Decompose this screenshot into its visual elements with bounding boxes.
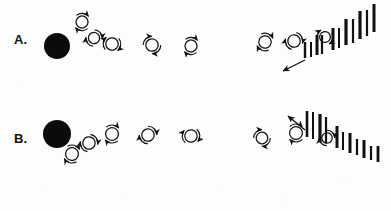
- rotating-particle: [84, 28, 105, 48]
- rotating-particle: [72, 11, 92, 32]
- panel-label-a: A.: [14, 32, 27, 47]
- rotating-particle: [102, 123, 123, 145]
- pointer-arrow: [288, 116, 305, 130]
- spectrum-bar: [377, 146, 380, 162]
- particle-circle: [74, 14, 89, 29]
- particle-circle: [104, 36, 120, 52]
- spectrum-bar: [366, 10, 368, 36]
- spectrum-bar: [316, 35, 319, 55]
- rotation-arrow-icon: [260, 138, 272, 147]
- rotating-particle: [181, 35, 201, 56]
- particle-circle: [81, 135, 97, 151]
- spectrum-bar: [338, 28, 340, 48]
- rotating-particle: [252, 127, 273, 149]
- rotating-particle: [78, 133, 100, 153]
- spectrum-bar: [352, 19, 354, 43]
- rotation-arrow-icon: [85, 36, 93, 48]
- spectrum-bar: [370, 146, 372, 160]
- rotating-particle: [286, 122, 306, 143]
- figure-root: A.B.: [0, 0, 391, 211]
- particle-circle: [87, 31, 102, 46]
- panel-label-b: B.: [14, 131, 27, 146]
- pointer-arrow: [283, 60, 305, 71]
- spectrum-bar: [342, 132, 344, 150]
- panel-a: A.: [14, 4, 376, 71]
- particle-circle: [318, 30, 333, 45]
- spectrum-bar: [356, 139, 358, 155]
- rotation-arrow-icon: [327, 128, 336, 139]
- rotation-arrow-icon: [252, 129, 264, 138]
- spectrum-bar: [304, 42, 306, 58]
- spectrum-bar: [349, 133, 352, 153]
- spectrum-bar: [306, 111, 309, 137]
- rotating-particle: [101, 34, 123, 54]
- panel-b: B.: [14, 111, 379, 166]
- rotating-particle: [181, 127, 201, 145]
- rotating-particle: [141, 34, 163, 57]
- particle-circle: [104, 126, 120, 142]
- spectrum-bar: [363, 140, 366, 158]
- spectrum-bar: [373, 4, 376, 32]
- source-sphere: [44, 33, 70, 59]
- spectrum-bar: [310, 42, 312, 57]
- rotating-particle: [284, 31, 305, 50]
- source-sphere: [43, 120, 71, 148]
- spectrum-bar: [312, 112, 314, 139]
- particle-circle: [286, 33, 301, 48]
- rotating-particle: [137, 124, 160, 146]
- spectrum-bar: [344, 19, 347, 45]
- spectrum-bar: [325, 117, 327, 143]
- spectrum-bar: [321, 35, 323, 54]
- spectrum-bar: [358, 11, 361, 39]
- rotation-arrow-icon: [95, 28, 103, 40]
- spectrum-bar: [336, 126, 339, 148]
- spectrum-bar: [332, 28, 335, 50]
- spectrum-bar: [318, 114, 321, 142]
- rotating-particle: [254, 30, 277, 53]
- particle-circle: [183, 38, 198, 53]
- figure-canvas: A.B.: [0, 0, 391, 211]
- particle-circle: [184, 129, 198, 143]
